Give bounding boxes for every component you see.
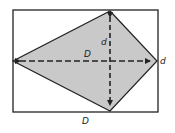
long-diagonal-label: D (84, 49, 91, 59)
rect-height-label: d (160, 56, 166, 66)
kite-diagram: d D d D (0, 0, 175, 133)
short-diagonal-label: d (101, 37, 107, 47)
rect-width-label: D (82, 116, 89, 126)
